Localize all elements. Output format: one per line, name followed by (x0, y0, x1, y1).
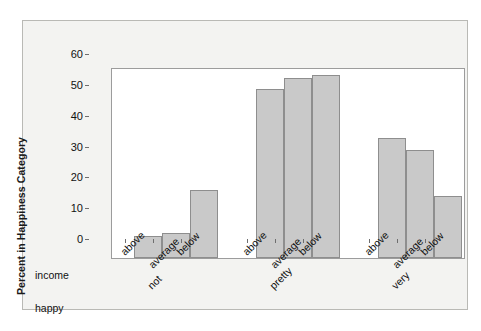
y-tick-mark (85, 116, 89, 117)
row-header-income: income (35, 269, 69, 281)
y-tick-label: 20 (49, 171, 83, 183)
chart-screenshot: Percent in Happiness Category 0102030405… (0, 0, 481, 331)
y-tick-mark (85, 54, 89, 55)
x-group-label-very: very (389, 269, 412, 292)
bar (284, 78, 312, 258)
y-tick-mark (85, 239, 89, 240)
x-tick-mark (153, 239, 154, 243)
y-tick-mark (85, 85, 89, 86)
y-tick-label: 50 (49, 79, 83, 91)
plot-area (111, 68, 465, 259)
y-tick-mark (85, 208, 89, 209)
x-tick-mark (275, 239, 276, 243)
row-header-happy: happy (35, 302, 64, 314)
y-tick-label: 30 (49, 141, 83, 153)
x-group-label-not: not (145, 273, 164, 292)
figure-frame: Percent in Happiness Category 0102030405… (22, 20, 468, 310)
x-tick-mark (397, 239, 398, 243)
y-tick-label: 60 (49, 48, 83, 60)
y-tick-mark (85, 177, 89, 178)
y-axis-title: Percent in Happiness Category (15, 116, 27, 316)
y-tick-label: 10 (49, 202, 83, 214)
bar (434, 196, 462, 258)
y-tick-mark (85, 147, 89, 148)
bar (190, 190, 218, 258)
y-tick-label: 0 (49, 233, 83, 245)
x-group-label-pretty: pretty (267, 264, 294, 291)
y-tick-label: 40 (49, 110, 83, 122)
